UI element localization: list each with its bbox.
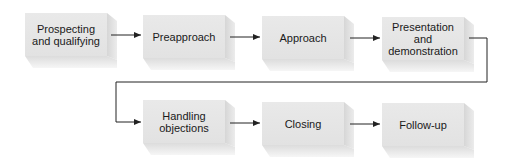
connectors bbox=[0, 0, 510, 161]
arrow-4-5 bbox=[116, 38, 487, 122]
